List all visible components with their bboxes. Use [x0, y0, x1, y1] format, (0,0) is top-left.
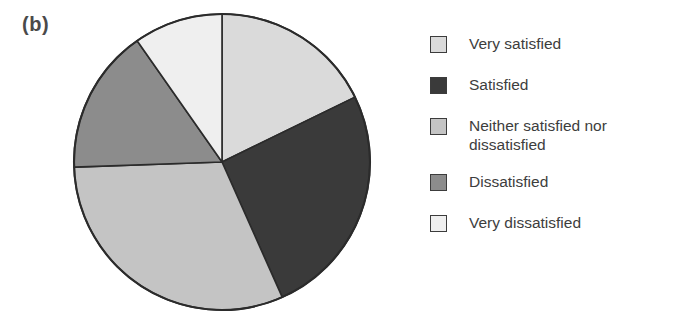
legend-swatch-neither-satisfied-nor-dissatisfied [430, 118, 447, 135]
pie-chart [0, 0, 420, 324]
legend-label-very-dissatisfied: Very dissatisfied [469, 213, 581, 232]
legend-item-very-satisfied[interactable]: Very satisfied [430, 34, 680, 53]
pie-slice-group [74, 14, 370, 310]
legend-swatch-very-satisfied [430, 36, 447, 53]
legend-item-neither-satisfied-nor-dissatisfied[interactable]: Neither satisfied nor dissatisfied [430, 116, 680, 154]
legend-item-very-dissatisfied[interactable]: Very dissatisfied [430, 213, 680, 232]
legend-swatch-dissatisfied [430, 174, 447, 191]
legend-swatch-satisfied [430, 77, 447, 94]
legend-item-satisfied[interactable]: Satisfied [430, 75, 680, 94]
legend-label-very-satisfied: Very satisfied [469, 34, 561, 53]
pie-chart-svg [0, 0, 420, 324]
pie-chart-figure: (b) Very satisfied Satisfied Neither sat… [0, 0, 694, 324]
legend-item-dissatisfied[interactable]: Dissatisfied [430, 172, 680, 191]
legend: Very satisfied Satisfied Neither satisfi… [430, 34, 680, 254]
legend-label-satisfied: Satisfied [469, 75, 528, 94]
legend-swatch-very-dissatisfied [430, 215, 447, 232]
legend-label-neither-satisfied-nor-dissatisfied: Neither satisfied nor dissatisfied [469, 116, 669, 154]
legend-label-dissatisfied: Dissatisfied [469, 172, 548, 191]
